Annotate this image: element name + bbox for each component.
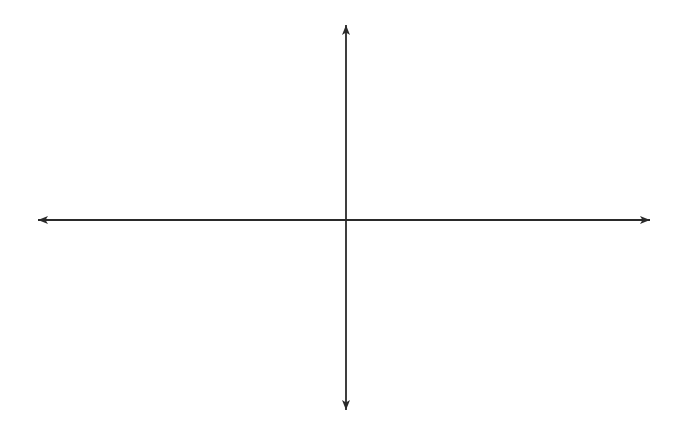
axes xyxy=(38,25,650,410)
parabola-diagram xyxy=(0,0,700,425)
